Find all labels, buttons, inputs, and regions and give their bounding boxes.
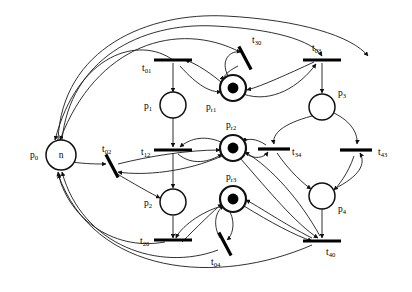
place-circle-p2[interactable]	[160, 189, 186, 215]
transition-label-sub-t40: 40	[329, 251, 336, 258]
token-pr3	[228, 194, 239, 205]
transition-label-sub-t12: 12	[144, 151, 151, 158]
place-circle-p1[interactable]	[160, 92, 186, 118]
place-circle-p3[interactable]	[309, 94, 335, 120]
transition-label-sub-t02: 02	[105, 148, 112, 155]
transition-label-sub-t04: 04	[214, 261, 221, 268]
place-label-sub-p1: 1	[149, 105, 152, 112]
transition-label-sub-t01: 01	[145, 67, 152, 74]
token-pr2	[228, 143, 239, 154]
transition-label-sub-t03: 03	[315, 47, 322, 54]
place-label-sub-pr1: r1	[211, 106, 217, 113]
place-circle-p4[interactable]	[309, 183, 335, 209]
place-label-sub-p2: 2	[149, 202, 152, 209]
petri-net-diagram: np0p1p2p3p4pr1pr2pr3 t01t30t03t02t12t34t…	[0, 0, 412, 292]
place-label-sub-pr3: r3	[231, 176, 237, 183]
place-label-sub-pr2: r2	[231, 124, 237, 131]
token-pr1	[228, 83, 239, 94]
transition-label-sub-t20: 20	[143, 240, 150, 247]
transition-label-sub-t30: 30	[255, 39, 262, 46]
transition-label-sub-t43: 43	[381, 151, 388, 158]
transition-label-sub-t34: 34	[295, 151, 302, 158]
place-marking-p0: n	[59, 150, 64, 160]
